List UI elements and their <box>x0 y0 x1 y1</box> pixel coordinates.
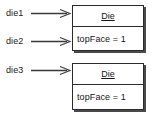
object-box-1-header: Die <box>73 6 143 27</box>
object-box-1-attribute-topface: topFace = 1 <box>77 34 126 44</box>
object-box-2: Die topFace = 1 <box>72 63 144 110</box>
uml-object-diagram-canvas: die1 die2 die3 Die topFace = 1 Die <box>0 0 152 127</box>
reference-label-die2: die2 <box>6 36 23 46</box>
object-box-2-class-name: Die <box>101 69 115 79</box>
object-box-1-attributes: topFace = 1 <box>73 27 143 50</box>
reference-label-die3: die3 <box>6 65 23 75</box>
object-box-2-header: Die <box>73 64 143 85</box>
arrow-die3-icon <box>31 66 71 75</box>
object-box-1: Die topFace = 1 <box>72 5 144 51</box>
object-box-1-class-name: Die <box>101 11 115 21</box>
reference-label-die1: die1 <box>6 8 23 18</box>
object-box-2-attribute-topface: topFace = 1 <box>77 92 126 102</box>
object-box-2-attributes: topFace = 1 <box>73 85 143 108</box>
arrow-die2-icon <box>31 37 71 46</box>
arrow-die1-icon <box>31 9 71 18</box>
